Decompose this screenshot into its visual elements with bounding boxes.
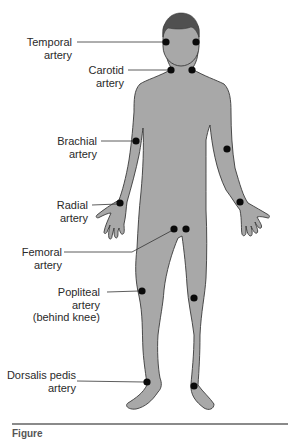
label-line: Temporal — [27, 36, 72, 49]
label-line: artery — [57, 212, 88, 225]
dorsalis-pedis-left-dot — [143, 378, 150, 385]
label-line: artery — [7, 382, 76, 395]
label-femoral-artery: Femoral artery — [22, 246, 62, 271]
temporal-right-dot — [192, 38, 199, 45]
popliteal-right-dot — [190, 294, 197, 301]
label-line: artery — [27, 49, 72, 62]
label-popliteal-artery: Popliteal artery (behind knee) — [33, 286, 100, 324]
label-radial-artery: Radial artery — [57, 199, 88, 224]
brachial-right-dot — [223, 145, 230, 152]
label-line: artery — [57, 148, 97, 161]
label-dorsalis-pedis-artery: Dorsalis pedis artery — [7, 369, 76, 394]
label-line: Femoral — [22, 246, 62, 259]
label-line: Carotid — [89, 64, 124, 77]
femoral-right-dot — [182, 225, 189, 232]
label-line: artery — [89, 77, 124, 90]
temporal-left-dot — [162, 38, 169, 45]
label-line: Popliteal — [33, 286, 100, 299]
carotid-left-dot — [167, 66, 174, 73]
radial-left-dot — [116, 199, 123, 206]
label-line: Radial — [57, 199, 88, 212]
dorsalis-pedis-leader-line — [77, 381, 144, 382]
brachial-left-dot — [132, 137, 139, 144]
label-line: artery — [33, 299, 100, 312]
femoral-left-dot — [170, 225, 177, 232]
label-carotid-artery: Carotid artery — [89, 64, 124, 89]
label-line: artery — [22, 259, 62, 272]
popliteal-left-dot — [138, 287, 145, 294]
popliteal-leader-line — [107, 291, 139, 292]
figure-caption: Figure — [12, 428, 43, 439]
label-line: Brachial — [57, 135, 97, 148]
carotid-right-dot — [188, 66, 195, 73]
label-line: (behind knee) — [33, 311, 100, 324]
radial-right-dot — [236, 198, 243, 205]
label-temporal-artery: Temporal artery — [27, 36, 72, 61]
label-brachial-artery: Brachial artery — [57, 135, 97, 160]
label-line: Dorsalis pedis — [7, 369, 76, 382]
dorsalis-pedis-right-dot — [190, 382, 197, 389]
caption-divider — [12, 423, 288, 425]
